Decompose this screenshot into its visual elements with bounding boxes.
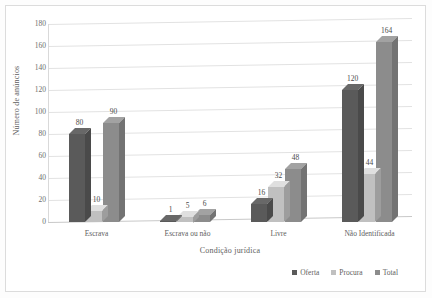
bar-value-label: 120 — [333, 74, 373, 83]
bar-oferta-2 — [251, 204, 267, 222]
y-axis-tick-label: 100 — [35, 108, 46, 116]
y-axis-tick-label: 40 — [39, 174, 47, 182]
y-axis-tick-label: 80 — [39, 130, 47, 138]
y-axis-title: Número de anúncios — [12, 41, 21, 161]
bar-side-face — [119, 117, 125, 222]
bar-side-face — [301, 163, 307, 222]
legend-swatch-icon — [375, 270, 380, 275]
bar-value-label: 6 — [185, 199, 225, 208]
bar-value-label: 16 — [242, 188, 282, 197]
y-axis-tick-label: 180 — [35, 20, 46, 28]
bar-oferta-1 — [160, 221, 176, 222]
y-axis-tick-label: 160 — [35, 42, 46, 50]
legend-swatch-icon — [292, 270, 297, 275]
legend-swatch-icon — [331, 270, 336, 275]
x-axis-title: Condição jurídica — [48, 246, 412, 255]
x-axis-category-label: Escrava — [47, 229, 147, 239]
bar-value-label: 10 — [77, 195, 117, 204]
bar-side-face — [375, 168, 381, 222]
y-axis-tick-label: 20 — [39, 196, 47, 204]
plot-area: 80109015616324812044164 — [48, 24, 412, 222]
x-axis-category-labels: EscravaEscrava ou nãoLivreNão Identifica… — [48, 229, 412, 243]
y-axis-tick-label: 140 — [35, 64, 46, 72]
chart-legend: OfertaProcuraTotal — [0, 268, 420, 277]
bar-value-label: 48 — [276, 153, 316, 162]
bar-front-face — [251, 204, 267, 222]
chart-container: 020406080100120140160180 Número de anúnc… — [0, 0, 432, 298]
legend-label: Oferta — [300, 268, 319, 277]
y-axis-tick-label: 120 — [35, 86, 46, 94]
x-axis-category-label: Escrava ou não — [138, 229, 238, 239]
x-axis-category-label: Não Identificada — [320, 229, 420, 239]
bar-front-face — [69, 134, 85, 222]
bar-value-label: 90 — [94, 107, 134, 116]
bar-value-label: 164 — [367, 26, 407, 35]
legend-item-total[interactable]: Total — [375, 268, 398, 277]
bar-oferta-0 — [69, 134, 85, 222]
bar-side-face — [284, 181, 290, 222]
bars-layer: 80109015616324812044164 — [48, 24, 412, 222]
bar-side-face — [85, 128, 91, 222]
legend-item-oferta[interactable]: Oferta — [292, 268, 319, 277]
x-axis-category-label: Livre — [229, 229, 329, 239]
bar-front-face — [160, 221, 176, 222]
bar-oferta-3 — [342, 90, 358, 222]
y-axis-tick-label: 0 — [42, 218, 46, 226]
bar-value-label: 44 — [350, 158, 390, 167]
bar-front-face — [342, 90, 358, 222]
bar-value-label: 80 — [60, 118, 100, 127]
bar-side-face — [358, 84, 364, 222]
legend-label: Total — [383, 268, 398, 277]
bar-side-face — [392, 36, 398, 222]
legend-label: Procura — [339, 268, 362, 277]
bar-value-label: 32 — [259, 171, 299, 180]
legend-item-procura[interactable]: Procura — [331, 268, 362, 277]
y-axis-tick-label: 60 — [39, 152, 47, 160]
